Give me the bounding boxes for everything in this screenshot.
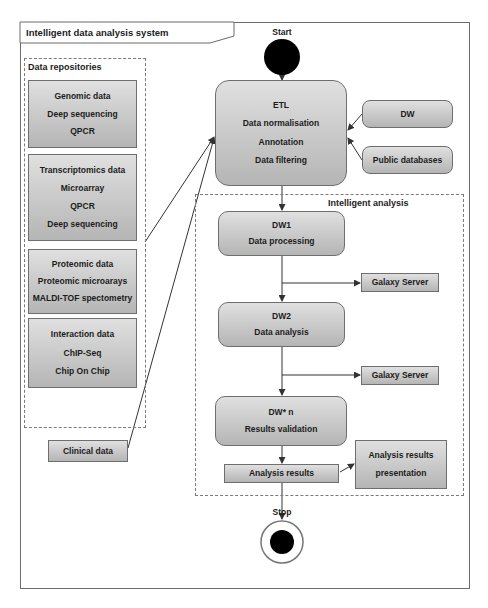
box-line: Results validation [245,424,318,435]
box-line: QPCR [70,126,95,137]
dwn-box: DW* n Results validation [215,396,347,446]
stop-label: Stop [262,507,302,517]
box-line: DW [400,109,414,120]
box-line: ChIP-Seq [64,348,102,359]
analysis-results-box: Analysis results [224,464,339,483]
box-line: Genomic data [54,91,110,102]
etl-box: ETL Data normalisation Annotation Data f… [215,80,347,186]
start-node-icon [263,38,303,78]
box-line: Data processing [248,236,314,247]
box-line: Chip On Chip [55,366,109,377]
intelligent-analysis-label: Intelligent analysis [328,198,409,208]
box-line: presentation [375,468,426,479]
box-line: Deep sequencing [47,219,117,230]
box-line: Analysis results [368,450,433,461]
stop-node-icon [258,518,306,566]
box-line: MALDI-TOF spectometry [33,293,133,304]
galaxy-server-box-1: Galaxy Server [361,273,439,292]
box-line: Public databases [373,155,442,166]
analysis-results-presentation-box: Analysis results presentation [355,440,447,489]
dw-box: DW [362,100,453,128]
data-repositories-label: Data repositories [28,62,102,72]
box-line: Deep sequencing [47,109,117,120]
box-line: Data analysis [254,327,308,338]
box-line: Clinical data [63,446,113,457]
box-line: Interaction data [51,329,114,340]
genomic-data-box: Genomic data Deep sequencing QPCR [28,80,137,148]
transcriptomics-data-box: Transcriptomics data Microarray QPCR Dee… [28,154,137,241]
box-line: DW* n [268,407,293,418]
box-line: Data normalisation [243,118,320,129]
dw2-box: DW2 Data analysis [218,302,345,347]
interaction-data-box: Interaction data ChIP-Seq Chip On Chip [28,318,137,388]
box-line: Galaxy Server [372,277,429,288]
galaxy-server-box-2: Galaxy Server [361,366,439,385]
box-line: Analysis results [249,468,314,479]
box-line: Proteomic microarays [38,276,127,287]
public-databases-box: Public databases [362,146,453,174]
box-line: Microarray [61,183,104,194]
box-line: ETL [273,100,289,111]
box-line: QPCR [70,201,95,212]
box-line: DW1 [272,220,291,231]
box-line: Galaxy Server [372,370,429,381]
box-line: DW2 [272,311,291,322]
box-line: Data filtering [255,155,307,166]
box-line: Annotation [259,137,304,148]
box-line: Proteomic data [52,259,113,270]
start-label: Start [262,27,302,37]
dw1-box: DW1 Data processing [218,211,345,256]
box-line: Transcriptomics data [40,165,126,176]
proteomic-data-box: Proteomic data Proteomic microarays MALD… [28,249,137,314]
clinical-data-box: Clinical data [48,440,128,462]
